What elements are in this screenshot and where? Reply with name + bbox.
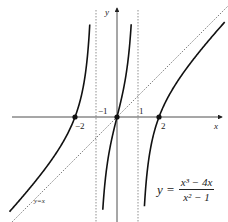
formula-numerator: x³ − 4x: [179, 176, 215, 190]
formula-fraction: x³ − 4x x² − 1: [179, 176, 215, 203]
chart: y x −2 −1 1 2 y=x y = x³ − 4x x² − 1: [0, 0, 228, 222]
x-axis-label: x: [214, 122, 218, 131]
y-axis-label: y: [105, 8, 109, 17]
tick-label-neg1: −1: [98, 107, 108, 116]
tick-label-neg2: −2: [75, 122, 85, 131]
asymptote-label: y=x: [34, 198, 45, 205]
formula-denominator: x² − 1: [183, 190, 210, 203]
function-formula: y = x³ − 4x x² − 1: [157, 176, 214, 203]
tick-label-2: 2: [161, 122, 166, 131]
tick-label-1: 1: [139, 107, 144, 116]
formula-lhs: y =: [157, 182, 175, 198]
